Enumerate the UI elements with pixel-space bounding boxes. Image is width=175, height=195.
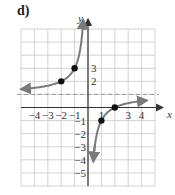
data-point	[58, 78, 64, 84]
x-tick-label: −4	[29, 109, 41, 121]
x-tick-label: 3	[125, 109, 131, 121]
data-point	[71, 65, 77, 71]
x-axis-label: x	[166, 108, 172, 120]
y-tick-label: 3	[91, 62, 97, 74]
y-tick-label: −5	[74, 167, 86, 179]
y-tick-label: −3	[74, 141, 86, 153]
y-axis-label: y	[77, 12, 83, 24]
y-tick-label: 2	[91, 75, 97, 87]
data-point	[112, 104, 118, 110]
x-tick-label: −3	[42, 109, 54, 121]
x-tick-label: 4	[139, 109, 145, 121]
graph: xy−4−3−2−113432−1−2−3−4−5	[0, 0, 175, 195]
y-tick-label: −4	[74, 154, 86, 166]
curve-left-branch	[21, 20, 83, 90]
x-tick-label: −2	[55, 109, 67, 121]
y-tick-label: −1	[74, 115, 86, 127]
y-tick-label: −2	[74, 128, 86, 140]
data-point	[98, 117, 104, 123]
